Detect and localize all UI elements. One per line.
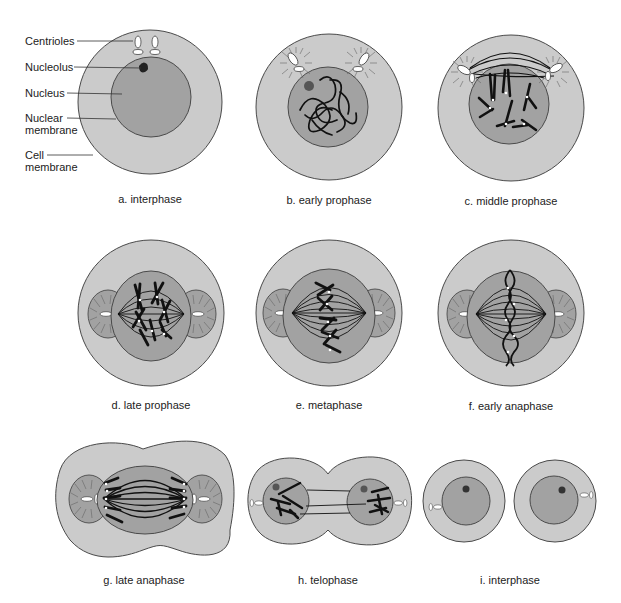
caption-d: d. late prophase [112,399,191,411]
cell-g-late-anaphase [56,441,234,557]
callout-nucleus: Nucleus [25,87,65,99]
cell-b-early-prophase [256,34,402,180]
cell-d-late-prophase [78,240,224,386]
caption-g: g. late anaphase [103,574,184,586]
caption-f: f. early anaphase [469,400,553,412]
caption-e: e. metaphase [296,399,363,411]
callout-cell-membrane-line1: Cell [25,149,78,161]
mitosis-diagram: Centrioles Nucleolus Nucleus Nuclear mem… [0,0,621,603]
caption-a: a. interphase [118,193,182,205]
caption-c: c. middle prophase [465,195,558,207]
cell-i-interphase [423,460,596,542]
caption-b: b. early prophase [287,194,372,206]
cell-f-early-anaphase [438,240,584,386]
callout-cell-membrane-line2: membrane [25,161,78,173]
callout-nucleolus: Nucleolus [25,61,73,73]
cell-e-metaphase [256,240,402,386]
cell-c-middle-prophase [438,35,584,181]
caption-i: i. interphase [480,574,540,586]
callout-nuclear-membrane: Nuclear membrane [25,112,78,136]
callout-cell-membrane: Cell membrane [25,149,78,173]
caption-h: h. telophase [298,574,358,586]
cell-h-telophase [248,457,412,545]
callout-nuclear-membrane-line1: Nuclear [25,112,78,124]
callout-centrioles: Centrioles [25,35,75,47]
callout-nuclear-membrane-line2: membrane [25,124,78,136]
